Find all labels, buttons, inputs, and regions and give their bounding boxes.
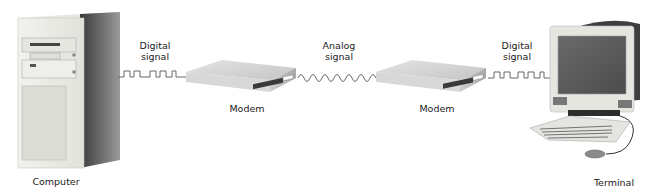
terminal-icon [530, 21, 640, 158]
analog-signal-waveform [298, 75, 376, 82]
modem-1-icon [186, 60, 296, 92]
digital-signal-2-waveform [488, 72, 550, 78]
digital-signal-1-waveform [118, 71, 186, 77]
terminal-label: Terminal [586, 177, 642, 188]
analog-signal-line2: signal [314, 51, 364, 62]
modem-2-label: Modem [412, 103, 462, 114]
digital-signal-2-line1: Digital [492, 40, 542, 51]
digital-signal-2-label: Digital signal [492, 40, 542, 62]
computer-tower-icon [18, 12, 120, 168]
modem-1-label: Modem [222, 103, 272, 114]
digital-signal-1-label: Digital signal [130, 40, 180, 62]
modem-2-icon [376, 60, 486, 92]
digital-signal-1-line2: signal [130, 51, 180, 62]
computer-label: Computer [28, 176, 84, 187]
digital-signal-2-line2: signal [492, 51, 542, 62]
diagram-canvas [0, 0, 656, 192]
digital-signal-1-line1: Digital [130, 40, 180, 51]
analog-signal-label: Analog signal [314, 40, 364, 62]
analog-signal-line1: Analog [314, 40, 364, 51]
